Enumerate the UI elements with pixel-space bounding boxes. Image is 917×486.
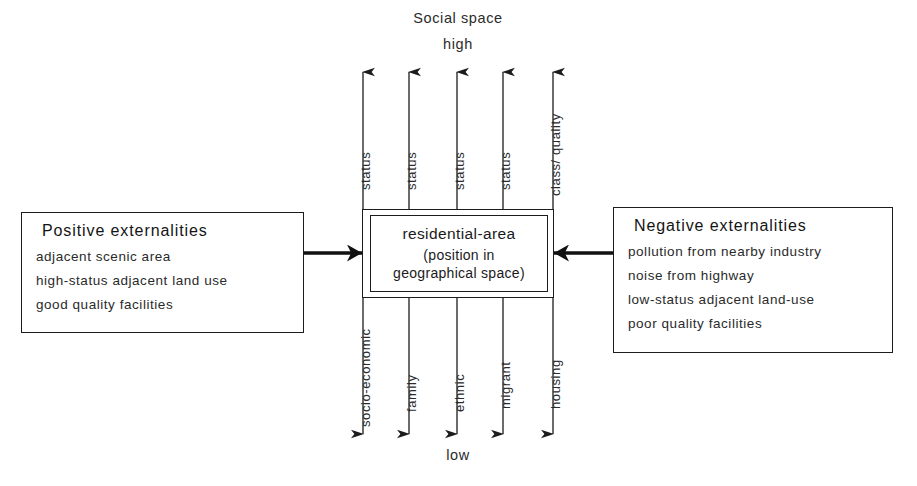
axis-bottom-label-family: family — [404, 374, 419, 412]
negative-externalities-item: poor quality facilities — [628, 316, 892, 331]
residential-area-subtitle-line1: (position in — [423, 247, 494, 265]
axis-bottom-label-ethnic: ethnic — [452, 374, 467, 412]
axis-top-label-class-quality: class/ quality — [548, 113, 563, 196]
axis-bottom-label-migrant: migrant — [498, 361, 513, 409]
negative-externalities-item: noise from highway — [628, 268, 892, 283]
axis-top-label-status-3: status — [452, 152, 467, 190]
negative-externalities-box: Negative externalities pollution from ne… — [613, 207, 893, 353]
negative-externalities-item: pollution from nearby industry — [628, 244, 892, 259]
residential-area-title: residential-area — [402, 225, 515, 243]
axis-top-label-status-2: status — [404, 152, 419, 190]
positive-externalities-item: high-status adjacent land use — [36, 273, 303, 288]
social-space-caption: Social space — [358, 10, 558, 26]
low-pole-label: low — [358, 447, 558, 463]
residential-area-node: residential-area (position in geographic… — [370, 215, 548, 292]
positive-externalities-item: good quality facilities — [36, 297, 303, 312]
diagram-canvas: Social space high low status status stat… — [0, 0, 917, 486]
axis-bottom-label-housing: housing — [548, 359, 563, 409]
high-pole-label: high — [358, 36, 558, 52]
positive-externalities-item: adjacent scenic area — [36, 249, 303, 264]
axis-top-label-status-1: status — [358, 152, 373, 190]
positive-externalities-box: Positive externalities adjacent scenic a… — [21, 212, 304, 333]
residential-area-subtitle-line2: geographical space) — [393, 265, 525, 283]
positive-externalities-title: Positive externalities — [42, 222, 303, 240]
negative-externalities-title: Negative externalities — [634, 217, 892, 235]
axis-top-label-status-4: status — [498, 152, 513, 190]
axis-bottom-label-socio-economic: socio-economic — [358, 328, 373, 427]
negative-externalities-item: low-status adjacent land-use — [628, 292, 892, 307]
